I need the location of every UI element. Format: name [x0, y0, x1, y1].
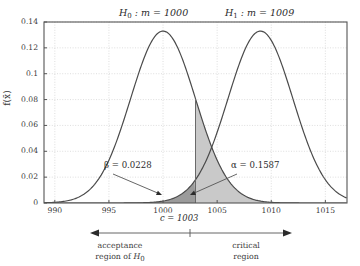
plot-area — [0, 0, 360, 266]
y-tick-label: 0 — [2, 198, 38, 207]
y-tick-label: 0.12 — [2, 43, 38, 52]
y-tick-label: 0.06 — [2, 120, 38, 129]
critical-region-caption: critical region — [196, 240, 296, 262]
statistical-hypothesis-test-chart: H0 : m = 1000 H1 : m = 1009 f(x̄) — [0, 0, 360, 266]
critical-value-text: c = 1003 — [160, 213, 198, 223]
x-tick-label: 1010 — [251, 206, 291, 215]
acceptance-region-line2: region of H0 — [62, 251, 178, 265]
y-tick-label: 0.04 — [2, 146, 38, 155]
beta-annotation: β = 0.0228 — [104, 160, 152, 170]
y-tick-label: 0.02 — [2, 172, 38, 181]
beta-shaded-region — [44, 181, 196, 203]
y-tick-label: 0.14 — [2, 17, 38, 26]
critical-region-line2: region — [196, 251, 296, 262]
x-tick-label: 995 — [89, 206, 129, 215]
y-tick-label: 0.1 — [2, 69, 38, 78]
acceptance-region-line2-pre: region of — [95, 252, 133, 261]
acceptance-region-h-subscript: 0 — [140, 255, 144, 263]
y-tick-label: 0.08 — [2, 95, 38, 104]
alpha-annotation: α = 0.1587 — [231, 160, 280, 170]
critical-region-line1: critical — [196, 240, 296, 251]
critical-value-label: c = 1003 — [160, 213, 198, 223]
x-tick-label: 1005 — [197, 206, 237, 215]
x-tick-label: 990 — [35, 206, 75, 215]
region-arrow-left-head — [90, 230, 99, 237]
alpha-shaded-region — [196, 99, 348, 203]
region-arrow-right-head — [283, 230, 292, 237]
region-indicator-arrow — [90, 229, 292, 237]
beta-arrow — [113, 174, 160, 194]
x-tick-label: 1015 — [305, 206, 345, 215]
acceptance-region-caption: acceptance region of H0 — [62, 240, 178, 265]
acceptance-region-line1: acceptance — [62, 240, 178, 251]
